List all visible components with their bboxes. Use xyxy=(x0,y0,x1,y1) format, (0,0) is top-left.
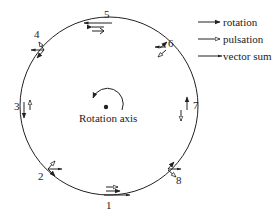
point-label-4: 4 xyxy=(34,28,40,40)
rotation-pulsation-diagram: Rotation axis 5 4 6 3 7 2 xyxy=(0,0,280,214)
svg-text:pulsation: pulsation xyxy=(223,33,264,45)
svg-text:vector sum: vector sum xyxy=(223,50,272,62)
legend-item-rotation: rotation xyxy=(198,16,258,28)
legend: rotation pulsation vector sum xyxy=(198,16,272,62)
rotation-axis-label: Rotation axis xyxy=(79,112,137,124)
point-label-8: 8 xyxy=(176,174,182,186)
point-label-3: 3 xyxy=(14,100,20,112)
point-label-5: 5 xyxy=(104,8,110,20)
legend-item-pulsation: pulsation xyxy=(198,33,264,45)
point-label-2: 2 xyxy=(38,170,44,182)
point-label-1: 1 xyxy=(106,199,112,211)
point-1: 1 xyxy=(104,187,130,211)
rotation-axis-dot xyxy=(104,105,108,109)
point-7: 7 xyxy=(181,97,199,121)
point-5: 5 xyxy=(84,8,112,34)
point-label-7: 7 xyxy=(193,99,199,111)
point-label-6: 6 xyxy=(168,37,174,49)
legend-item-vector-sum: vector sum xyxy=(198,50,272,62)
point-6: 6 xyxy=(155,37,174,57)
svg-text:rotation: rotation xyxy=(223,16,258,28)
point-3: 3 xyxy=(14,100,30,118)
